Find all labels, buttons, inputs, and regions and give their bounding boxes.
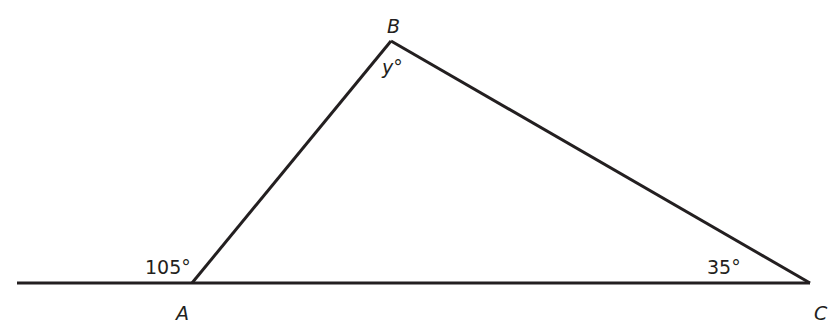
side-bc: [391, 41, 810, 283]
vertex-label-a: A: [176, 304, 189, 323]
vertex-label-b: B: [387, 17, 400, 36]
triangle-diagram: B y° 105° A 35° C: [0, 0, 834, 331]
triangle-figure: [0, 0, 834, 331]
angle-label-b: y°: [382, 58, 403, 77]
side-ab: [192, 41, 391, 283]
angle-label-a-exterior: 105°: [145, 258, 191, 277]
vertex-label-c: C: [814, 304, 827, 323]
angle-label-c: 35°: [707, 258, 741, 277]
